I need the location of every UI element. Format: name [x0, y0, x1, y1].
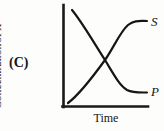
x-axis-title: Time: [63, 111, 149, 125]
curve-label-p: P: [151, 85, 159, 99]
curve-label-s: S: [151, 15, 158, 29]
figure-panel-c: (C) Concentration of X S P Time: [0, 0, 164, 131]
curve-s-path: [68, 21, 147, 103]
